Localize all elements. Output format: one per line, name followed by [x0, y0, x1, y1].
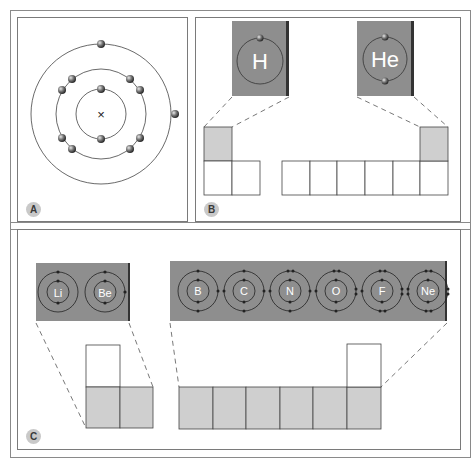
element-symbol-he: He: [371, 47, 399, 72]
nucleus-symbol: ×: [97, 107, 105, 122]
panel-a: × A: [17, 17, 188, 222]
element-symbol-f: F: [379, 285, 386, 297]
element-symbol-o: O: [332, 285, 341, 297]
element-symbol-b: B: [194, 285, 201, 297]
bohr-atom-diagram: ×: [18, 18, 189, 223]
element-symbol-ne: Ne: [421, 285, 435, 297]
periodic-row-2-diagram: Li Be: [18, 230, 462, 451]
panel-c: Li Be: [17, 229, 461, 450]
panel-label-a: A: [26, 202, 41, 217]
element-symbol-c: C: [240, 285, 248, 297]
element-card-he: He: [357, 21, 414, 96]
panel-label-b: B: [204, 202, 219, 217]
element-symbol-n: N: [286, 285, 294, 297]
element-card-b-to-ne: B C N O F Ne: [170, 261, 450, 321]
element-card-h: H: [232, 21, 289, 96]
element-symbol-h: H: [252, 49, 268, 74]
periodic-row-1-diagram: H He: [196, 18, 462, 223]
panel-b: H He B: [195, 17, 461, 222]
element-symbol-li: Li: [54, 287, 63, 299]
element-card-li-be: Li Be: [36, 263, 130, 321]
element-symbol-be: Be: [98, 287, 111, 299]
panel-label-c: C: [26, 429, 41, 444]
